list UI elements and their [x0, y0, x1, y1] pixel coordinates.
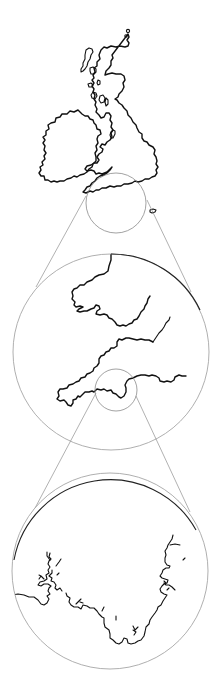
magnifier-lens-1: [86, 173, 146, 233]
frame-3-bg: [12, 473, 208, 669]
diagram-canvas: [0, 0, 223, 697]
coastline-zoom-diagram: [0, 0, 223, 697]
outer-hebrides-outline: [81, 48, 93, 72]
ireland-outline: [39, 110, 101, 182]
great-britain-outline: [83, 34, 158, 193]
frame-2-bg: [13, 254, 209, 450]
island-orkney: [126, 29, 129, 32]
